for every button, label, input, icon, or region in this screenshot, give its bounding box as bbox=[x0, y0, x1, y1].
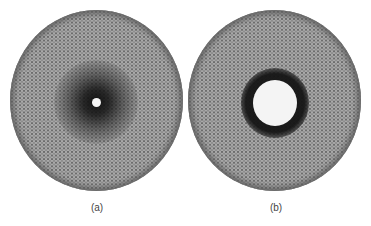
panel-b: (b) bbox=[0, 0, 185, 226]
panel-label-b: (b) bbox=[261, 202, 291, 213]
center-hole-b bbox=[253, 80, 297, 126]
